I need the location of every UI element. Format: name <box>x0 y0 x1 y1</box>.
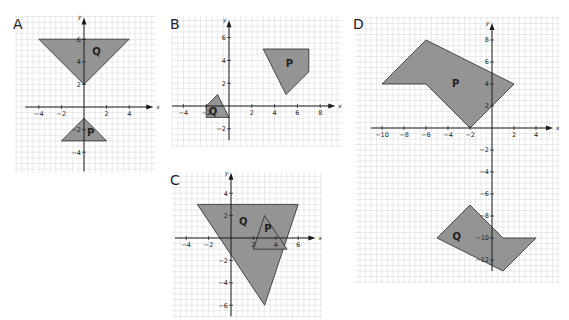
x-tick-label: 4 <box>127 110 131 118</box>
y-tick-label: 2 <box>485 102 489 110</box>
y-tick-label: −2 <box>216 125 226 133</box>
x-tick-label: −8 <box>399 131 409 139</box>
shape-label-p: P <box>286 58 293 69</box>
x-arrow-icon <box>308 236 315 241</box>
x-tick-label: −4 <box>179 109 189 117</box>
x-tick-label: 4 <box>534 131 538 139</box>
coordinate-grid: xy−4−224642−2−4QP <box>11 12 160 177</box>
shape-label-p: P <box>264 223 271 234</box>
y-tick-label: 6 <box>222 34 226 42</box>
coordinate-grid: xy−4−224642−2−4−6QP <box>168 168 326 320</box>
y-tick-label: −2 <box>218 257 228 265</box>
y-axis-label: y <box>77 13 82 21</box>
coordinate-grid: xy−10−8−6−4−2248642−2−4−6−8−10−12PQ <box>351 12 563 287</box>
grid-lines <box>172 16 342 147</box>
x-tick-label: −4 <box>34 110 44 118</box>
x-tick-label: 6 <box>296 241 300 249</box>
panel-letter-a: A <box>13 16 23 32</box>
graph-a: xy−4−224642−2−4QPA <box>11 12 160 177</box>
x-arrow-icon <box>546 126 553 131</box>
x-tick-label: 2 <box>250 109 254 117</box>
graph-d: xy−10−8−6−4−2248642−2−4−6−8−10−12PQD <box>351 12 563 287</box>
x-tick-label: −2 <box>57 110 67 118</box>
shape-label-q: Q <box>92 46 101 57</box>
x-tick-label: −6 <box>421 131 431 139</box>
coordinate-grid: xy−4−22468642−2PQ <box>168 12 346 151</box>
y-arrow-icon <box>490 23 495 30</box>
y-tick-label: −6 <box>479 190 489 198</box>
shape-label-p: P <box>87 127 94 138</box>
y-tick-label: 4 <box>224 190 228 198</box>
y-tick-label: −6 <box>218 302 228 310</box>
panel-letter-c: C <box>170 172 180 188</box>
graph-c: xy−4−224642−2−4−6QPC <box>168 168 326 320</box>
x-axis-label: x <box>317 234 322 241</box>
y-tick-label: 6 <box>77 36 81 44</box>
x-arrow-icon <box>146 105 153 110</box>
x-axis-label: x <box>337 102 342 109</box>
x-tick-label: 4 <box>273 109 277 117</box>
y-tick-label: 2 <box>77 81 81 89</box>
y-tick-label: −8 <box>479 212 489 220</box>
y-tick-label: 4 <box>485 80 489 88</box>
x-tick-label: 2 <box>512 131 516 139</box>
x-tick-label: 6 <box>295 109 299 117</box>
x-tick-label: −2 <box>465 131 475 139</box>
y-tick-label: 4 <box>77 58 81 66</box>
y-tick-label: −12 <box>475 256 489 264</box>
panel-letter-d: D <box>353 16 364 32</box>
y-axis-label: y <box>485 19 490 27</box>
y-arrow-icon <box>82 17 87 24</box>
y-tick-label: −4 <box>218 279 228 287</box>
y-tick-label: 8 <box>485 36 489 44</box>
x-tick-label: 4 <box>274 241 278 249</box>
x-tick-label: −2 <box>204 241 214 249</box>
y-tick-label: 2 <box>222 80 226 88</box>
graph-b: xy−4−22468642−2PQB <box>168 12 346 151</box>
x-tick-label: −4 <box>181 241 191 249</box>
y-arrow-icon <box>227 20 232 27</box>
panel-letter-b: B <box>170 16 180 32</box>
y-tick-label: 2 <box>224 212 228 220</box>
x-tick-label: 8 <box>318 109 322 117</box>
x-tick-label: 2 <box>105 110 109 118</box>
x-tick-label: −4 <box>443 131 453 139</box>
y-tick-label: 6 <box>485 58 489 66</box>
y-axis-label: y <box>222 16 227 24</box>
shape-label-q: Q <box>453 231 462 242</box>
y-tick-label: 4 <box>222 57 226 65</box>
y-tick-label: −10 <box>475 234 489 242</box>
x-tick-label: −10 <box>375 131 389 139</box>
y-tick-label: −4 <box>71 149 81 157</box>
x-axis-label: x <box>155 103 160 110</box>
shape-label-q: Q <box>239 216 248 227</box>
x-axis-label: x <box>555 124 560 131</box>
y-tick-label: −4 <box>479 168 489 176</box>
y-tick-label: −2 <box>479 146 489 154</box>
shape-label-q: Q <box>209 106 218 117</box>
x-tick-label: 2 <box>251 241 255 249</box>
y-axis-label: y <box>224 169 229 177</box>
shape-label-p: P <box>452 78 459 89</box>
y-tick-label: −2 <box>71 126 81 134</box>
